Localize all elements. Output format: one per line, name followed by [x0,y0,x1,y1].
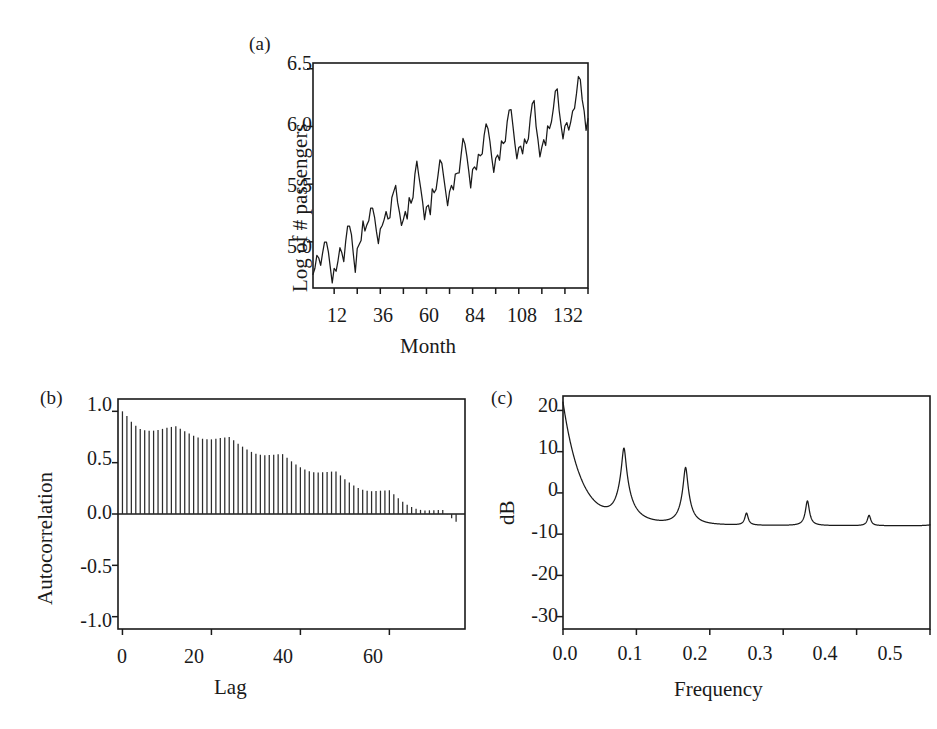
panel-a-plot [0,0,620,370]
panel-b: (b) Autocorrelation Lag 1.0 0.5 0.0 -0.5… [0,370,480,729]
panel-b-acf-bars [122,411,456,521]
panel-a-frame [313,63,588,288]
panel-b-plot [0,370,480,729]
panel-c: (c) dB Frequency 20 10 0 -10 -20 -30 0.0… [480,370,937,729]
panel-c-spectrum-line [563,402,930,526]
three-panel-timeseries-figure: (a) Log of # passengers Month 6.5 6.0 5.… [0,0,937,729]
panel-a-series-line [313,77,588,283]
panel-c-plot [480,370,937,729]
panel-a: (a) Log of # passengers Month 6.5 6.0 5.… [0,0,620,370]
